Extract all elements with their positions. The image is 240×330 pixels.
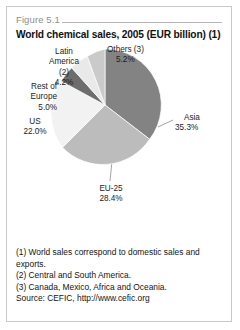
- us-name: US: [29, 117, 40, 126]
- others-value: 5.2%: [116, 55, 135, 65]
- note-line-2: exports.: [16, 259, 223, 271]
- note-line-3: (2) Central and South America.: [16, 270, 223, 282]
- latin-america-line3: (2): [59, 68, 69, 77]
- figure-number: Figure 5.1: [16, 14, 60, 25]
- figure-header: Figure 5.1: [16, 14, 222, 25]
- rest-europe-line2: Europe: [31, 92, 57, 101]
- leader-line-asia: [158, 120, 173, 127]
- latin-america-line1: Latin: [55, 47, 73, 56]
- asia-name: Asia: [184, 113, 200, 123]
- figure-notes: (1) World sales correspond to domestic s…: [16, 247, 223, 305]
- pie-label-rest-europe: Rest of Europe 5.0%: [7, 82, 57, 113]
- pie-chart: Latin America (2) 4.2% Others (3) 5.2% R…: [7, 43, 231, 243]
- figure-container: Figure 5.1 World chemical sales, 2005 (E…: [6, 6, 232, 322]
- eu25-name: EU-25: [99, 184, 122, 193]
- pie-label-us: US 22.0%: [11, 117, 59, 138]
- pie-label-eu25: EU-25 28.4%: [83, 184, 139, 205]
- note-source: Source: CEFIC, http://www.cefic.org: [16, 293, 223, 305]
- pie-label-asia: Asia 35.3%: [175, 113, 231, 134]
- latin-america-value: 4.2%: [55, 78, 74, 87]
- us-value: 22.0%: [23, 127, 46, 136]
- rest-europe-line1: Rest of: [31, 82, 57, 91]
- rest-europe-value: 5.0%: [38, 103, 57, 112]
- latin-america-line2: America: [49, 57, 79, 66]
- header-rule: [62, 22, 222, 23]
- note-line-1: (1) World sales correspond to domestic s…: [16, 247, 223, 259]
- asia-value: 35.3%: [175, 123, 198, 132]
- eu25-value: 28.4%: [99, 194, 122, 203]
- note-line-4: (3) Canada, Mexico, Africa and Oceania.: [16, 282, 223, 294]
- others-name: Others (3): [107, 45, 144, 54]
- figure-title: World chemical sales, 2005 (EUR billion)…: [16, 29, 225, 40]
- pie-label-others: Others (3) 5.2%: [107, 45, 177, 66]
